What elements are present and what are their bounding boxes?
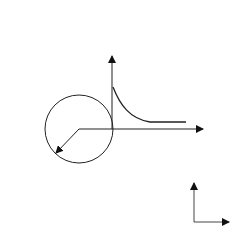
radius-arrow	[56, 129, 79, 153]
plate-with-hole-diagram	[0, 0, 246, 243]
stress-decay-curve	[113, 87, 186, 122]
